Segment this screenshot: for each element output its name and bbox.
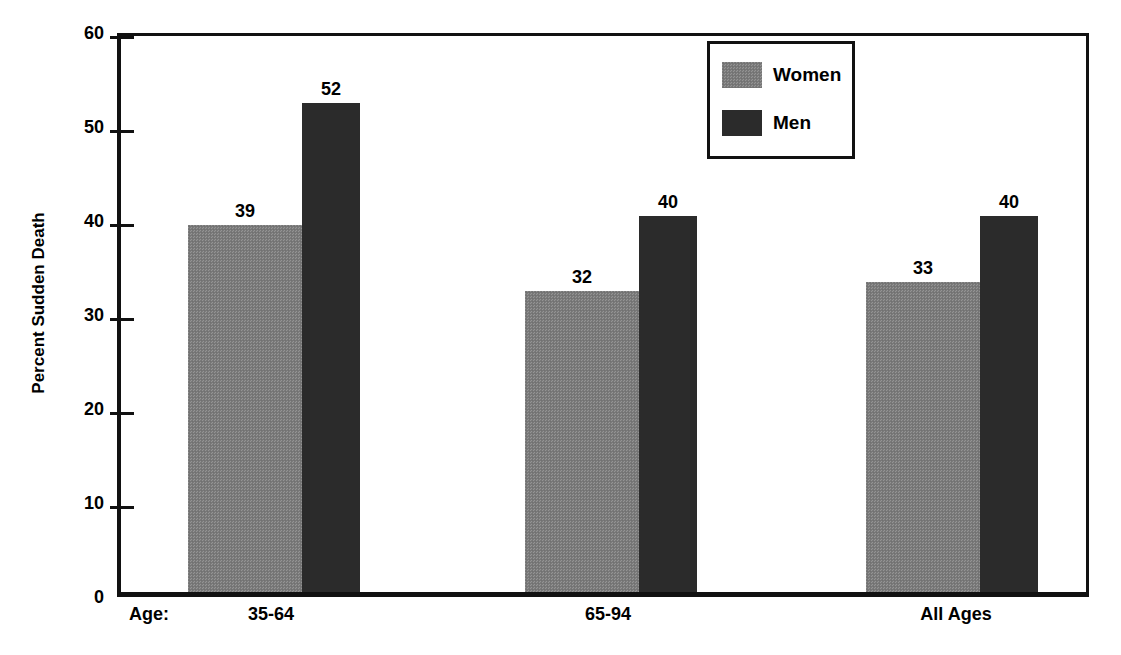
y-tick-mark-60 (110, 36, 134, 39)
y-tick-label-50: 50 (58, 118, 104, 136)
y-tick-label-20: 20 (58, 400, 104, 418)
x-axis-title: Age: (129, 604, 169, 625)
y-tick-mark-10 (110, 506, 134, 509)
legend-label-women: Women (773, 64, 841, 86)
legend-label-men: Men (773, 112, 811, 134)
bar-men-65-94 (639, 216, 697, 592)
legend-item-women: Women (722, 62, 841, 88)
y-tick-label-30: 30 (58, 306, 104, 324)
y-tick-mark-40 (110, 224, 134, 227)
y-tick-label-0: 0 (58, 588, 104, 606)
bar-label-women-all-ages: 33 (866, 259, 980, 277)
men-swatch-icon (722, 110, 762, 136)
y-tick-label-60: 60 (58, 24, 104, 42)
bar-women-65-94 (525, 291, 639, 592)
bar-women-35-64 (188, 225, 302, 592)
y-tick-mark-30 (110, 318, 134, 321)
plot-inner: 39 52 32 40 33 40 (121, 36, 1086, 592)
women-swatch-icon (722, 62, 762, 88)
x-category-label-35-64: 35-64 (211, 604, 331, 625)
legend-item-men: Men (722, 110, 811, 136)
y-axis-title: Percent Sudden Death (29, 143, 51, 463)
bar-label-men-all-ages: 40 (980, 193, 1038, 211)
plot-area: 39 52 32 40 33 40 (117, 33, 1089, 597)
bar-label-men-35-64: 52 (302, 80, 360, 98)
bar-label-women-35-64: 39 (188, 202, 302, 220)
y-tick-label-40: 40 (58, 212, 104, 230)
y-tick-label-10: 10 (58, 494, 104, 512)
bar-label-women-65-94: 32 (525, 268, 639, 286)
x-category-label-65-94: 65-94 (548, 604, 668, 625)
legend: Women Men (707, 41, 855, 159)
bar-men-35-64 (302, 103, 360, 592)
y-tick-mark-50 (110, 130, 134, 133)
bar-men-all-ages (980, 216, 1038, 592)
bar-women-all-ages (866, 282, 980, 592)
bar-label-men-65-94: 40 (639, 193, 697, 211)
bar-chart-figure: Percent Sudden Death 60 50 40 30 20 10 0… (0, 0, 1121, 655)
y-tick-mark-20 (110, 412, 134, 415)
x-category-label-all-ages: All Ages (886, 604, 1026, 625)
